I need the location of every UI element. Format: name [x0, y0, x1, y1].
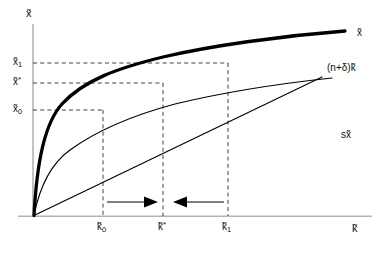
x-tick-k0-sub: 0 — [102, 225, 106, 234]
x-tick-label-k0: k̃0 — [97, 222, 106, 232]
curve-label-break-even-investment: (n+δ)k̃ — [327, 63, 356, 73]
solow-growth-diagram: x̃ k̃ x̃1 x̃* x̃0 k̃0 k̃* k̃1 x̃ (n+δ)k̃… — [0, 0, 379, 258]
y-tick-xstar-sup: * — [18, 75, 21, 84]
x-tick-label-k1: k̃1 — [222, 222, 231, 232]
y-tick-x0-sub: 0 — [18, 107, 22, 116]
curve-break-even-investment — [34, 77, 322, 216]
y-tick-label-xstar: x̃* — [13, 77, 21, 87]
y-tick-label-x0: x̃0 — [13, 104, 22, 114]
x-tick-label-kstar: k̃* — [158, 222, 166, 232]
convergence-arrow-right — [107, 197, 158, 208]
curve-production-function — [34, 31, 345, 216]
curve-label-actual-investment: sx̃ — [341, 130, 351, 140]
y-tick-x1-sub: 1 — [18, 60, 22, 69]
x-tick-kstar-sup: * — [163, 220, 166, 229]
plot-canvas — [0, 0, 379, 258]
curve-actual-investment — [34, 78, 332, 216]
curve-label-production-function: x̃ — [357, 28, 362, 38]
x-axis-title: k̃ — [352, 223, 358, 234]
y-axis-title: x̃ — [26, 8, 32, 19]
x-tick-k1-sub: 1 — [227, 225, 231, 234]
convergence-arrow-left — [173, 197, 224, 208]
y-tick-label-x1: x̃1 — [13, 57, 22, 67]
